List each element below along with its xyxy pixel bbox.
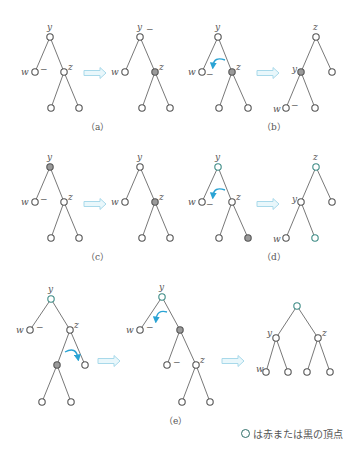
rotate-arrow-b <box>213 59 225 66</box>
caption-e: （e） <box>164 416 187 426</box>
svg-text:z: z <box>321 328 327 338</box>
svg-text:w: w <box>188 67 196 77</box>
svg-text:−: − <box>291 100 299 110</box>
caption-a: （a） <box>86 122 109 132</box>
svg-text:−: − <box>40 64 48 74</box>
transform-arrows <box>84 68 279 367</box>
rotation-arrows <box>65 59 225 358</box>
transform-arrow-d <box>257 199 279 210</box>
svg-text:y: y <box>136 152 143 162</box>
svg-text:−: − <box>206 69 214 79</box>
transform-arrow-b <box>257 68 279 79</box>
svg-text:w: w <box>16 325 24 335</box>
svg-text:z: z <box>73 320 79 330</box>
node-y <box>47 34 53 40</box>
svg-text:w: w <box>21 197 29 207</box>
svg-text:z: z <box>158 62 164 72</box>
svg-text:z: z <box>312 22 318 32</box>
svg-text:y: y <box>46 22 53 32</box>
svg-text:y: y <box>158 282 165 292</box>
svg-text:−: − <box>40 194 48 204</box>
rotate-arrow-e-mid <box>156 311 167 320</box>
svg-text:−: − <box>146 322 154 332</box>
svg-text:−: − <box>206 199 214 209</box>
transform-arrow-a <box>84 68 106 79</box>
caption-c: （c） <box>86 252 109 262</box>
legend-text: は赤または黒の頂点 <box>253 426 343 441</box>
svg-text:w: w <box>256 364 264 374</box>
rotate-arrow-e <box>65 350 78 358</box>
circle-node-icon <box>241 429 250 438</box>
panel-captions: （a） （b） （c） （d） （e） <box>86 122 286 426</box>
svg-text:y: y <box>291 64 298 74</box>
svg-text:w: w <box>273 104 281 114</box>
transform-arrow-e1 <box>98 356 120 367</box>
svg-text:z: z <box>67 192 73 202</box>
svg-text:y: y <box>136 22 143 32</box>
tree-nodes <box>27 34 335 405</box>
node-w <box>32 69 38 75</box>
svg-text:w: w <box>21 67 29 77</box>
legend: は赤または黒の頂点 <box>241 426 343 441</box>
svg-text:z: z <box>199 355 205 365</box>
svg-text:−: − <box>36 322 44 332</box>
transform-arrow-c <box>84 199 106 210</box>
svg-text:z: z <box>67 62 73 72</box>
caption-d: （d） <box>262 252 286 262</box>
svg-text:y: y <box>266 328 273 338</box>
svg-text:−: − <box>146 24 154 34</box>
svg-text:y: y <box>47 284 54 294</box>
rotate-arrow-d <box>213 189 225 196</box>
svg-text:w: w <box>188 197 196 207</box>
svg-text:z: z <box>312 152 318 162</box>
node-z <box>61 69 67 75</box>
svg-text:y: y <box>291 194 298 204</box>
svg-text:w: w <box>111 67 119 77</box>
svg-text:y: y <box>46 152 53 162</box>
svg-text:−: − <box>173 357 181 367</box>
svg-text:w: w <box>126 325 134 335</box>
svg-text:w: w <box>273 234 281 244</box>
caption-b: （b） <box>262 122 286 132</box>
transform-arrow-e2 <box>222 356 244 367</box>
svg-text:z: z <box>235 192 241 202</box>
svg-text:y: y <box>214 152 221 162</box>
svg-text:z: z <box>235 62 241 72</box>
svg-text:w: w <box>111 197 119 207</box>
svg-text:z: z <box>158 192 164 202</box>
red-black-tree-rebalancing-figure: y w − z y − w z y w − z z y w − y w − z … <box>0 0 355 452</box>
svg-text:y: y <box>214 22 221 32</box>
